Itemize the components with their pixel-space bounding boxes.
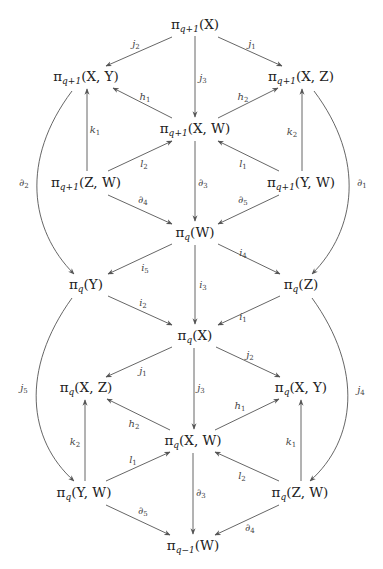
arrow-label-subscript: 3: [202, 77, 206, 85]
arrow-label: i3: [199, 279, 207, 292]
arrow-label-subscript: 2: [135, 423, 139, 431]
node-symbol: π: [57, 484, 66, 500]
arrow-label: ∂5: [238, 194, 248, 207]
arrow-label-subscript: 1: [242, 316, 246, 324]
node-argument: (Y, W): [295, 174, 335, 190]
diagram-node: πq(Z): [284, 276, 319, 294]
arrow-label-subscript: 1: [241, 405, 245, 413]
arrow-label: h2: [129, 418, 140, 431]
diagram-node: πq(X, Z): [60, 379, 113, 397]
node-symbol: π: [272, 484, 281, 500]
node-argument: (Z): [298, 276, 318, 292]
arrow-label: j2: [246, 349, 254, 362]
arrow-label-subscript: 5: [243, 199, 247, 207]
diagram-node: πq(X): [178, 327, 213, 345]
node-symbol: π: [175, 224, 184, 240]
arrow-label-subscript: 1: [251, 43, 255, 51]
node-argument: (Y, W): [71, 484, 111, 500]
diagram-node: πq+1(Y, W): [267, 174, 335, 192]
arrow-label-subscript: 1: [362, 182, 366, 190]
arrow-n7-to-n9: [218, 244, 280, 274]
arrow-label: j1: [139, 365, 147, 378]
node-symbol: π: [160, 120, 169, 136]
node-symbol: π: [284, 276, 293, 292]
arrow-label-subscript: 4: [250, 527, 254, 535]
arrow-label: l1: [239, 158, 247, 171]
arrow-label-subscript: 2: [249, 354, 253, 362]
arrow-label: j5: [20, 382, 28, 395]
arrow-label-subscript: 2: [135, 43, 139, 51]
node-subscript: q+1: [277, 76, 296, 86]
arrow-label: h1: [235, 400, 246, 413]
arrow-label: j3: [197, 382, 205, 395]
arrow-label: j1: [248, 38, 256, 51]
node-argument: (X, Z): [74, 379, 112, 395]
node-symbol: π: [178, 327, 187, 343]
node-argument: (X, W): [179, 432, 222, 448]
arrow-label: ∂3: [196, 487, 206, 500]
arrow-label-subscript: 3: [203, 182, 207, 190]
node-argument: (X): [192, 327, 212, 343]
arrow-n15-to-n13: [215, 452, 279, 481]
node-subscript: q+1: [169, 128, 188, 138]
arrow-label: ∂5: [138, 505, 148, 518]
node-symbol: π: [267, 174, 276, 190]
arrow-label-subscript: 1: [142, 370, 146, 378]
arrow-label-subscript: 5: [144, 267, 148, 275]
node-argument: (Z, W): [79, 174, 121, 190]
diagram-node: πq+1(X, Z): [268, 68, 334, 86]
node-subscript: q+1: [180, 24, 199, 34]
diagram-node: πq(Z, W): [272, 484, 329, 502]
diagram-node: πq(Y, W): [57, 484, 112, 502]
arrow-n13-to-n12: [215, 399, 279, 430]
arrow-label-subscript: 2: [293, 131, 297, 139]
arrow-label-subscript: 2: [142, 302, 146, 310]
diagram-node: πq−1(W): [167, 537, 219, 555]
node-symbol: π: [60, 379, 69, 395]
arrow-label-subscript: 2: [241, 475, 245, 483]
arrow-label: j2: [132, 38, 140, 51]
arrow-label: ∂1: [357, 177, 367, 190]
node-symbol: π: [167, 537, 176, 553]
arrow-label-subscript: 5: [143, 510, 147, 518]
node-argument: (Y): [84, 276, 103, 292]
arrow-label-subscript: 1: [96, 129, 100, 137]
diagram-node: πq+1(Z, W): [51, 174, 121, 192]
arrow-label: ∂4: [245, 522, 255, 535]
node-argument: (X, Y): [81, 68, 119, 84]
node-symbol: π: [53, 68, 62, 84]
arrow-n6-to-n4: [218, 141, 279, 171]
arrow-label: l2: [238, 470, 246, 483]
diagram-node: πq+1(X, Y): [53, 68, 119, 86]
arrow-label: k2: [287, 126, 298, 139]
node-argument: (W): [195, 537, 219, 553]
arrow-label-subscript: 3: [200, 387, 204, 395]
arrow-label-subscript: 2: [143, 163, 147, 171]
arrow-n6-to-n7: [218, 195, 279, 224]
node-subscript: q+1: [62, 76, 81, 86]
arrow-label-subscript: 4: [360, 389, 364, 397]
arrow-label: k1: [90, 124, 101, 137]
diagram-node: πq(Y): [69, 276, 103, 294]
arrow-label: h2: [238, 91, 249, 104]
arrow-n14-to-n13: [106, 452, 170, 481]
arrow-label: l2: [140, 158, 148, 171]
node-subscript: q+1: [276, 182, 295, 192]
arrow-n9-to-n10: [218, 296, 280, 325]
node-symbol: π: [171, 16, 180, 32]
arrow-label-subscript: 1: [242, 163, 246, 171]
arrow-label-subscript: 2: [244, 96, 248, 104]
arrow-label-subscript: 1: [146, 96, 150, 104]
node-argument: (Z, W): [286, 484, 328, 500]
diagram-node: πq(W): [175, 224, 214, 242]
node-symbol: π: [164, 432, 173, 448]
arrow-label: i5: [141, 262, 149, 275]
arrow-label-subscript: 4: [143, 199, 147, 207]
arrow-label: i2: [139, 297, 147, 310]
arrow-label: k1: [286, 436, 297, 449]
node-symbol: π: [69, 276, 78, 292]
node-argument: (W): [190, 224, 214, 240]
arrow-label: i1: [239, 311, 247, 324]
arrow-label: i4: [239, 247, 247, 260]
arrow-label-subscript: 2: [24, 182, 28, 190]
